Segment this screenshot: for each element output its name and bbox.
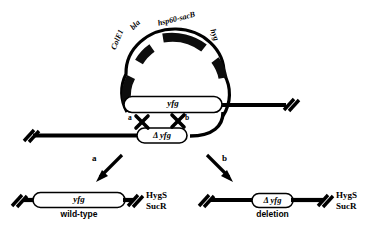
gene-block-hsp60-sacB (163, 37, 204, 48)
phenotype-deletion-suc: SucR (336, 201, 357, 212)
capsule-label-yfg: yfg (124, 99, 222, 108)
arrow-path-b (207, 155, 233, 182)
allelic-exchange-diagram: ColE1 bla hsp60-sacB hyg yfg Δ yfg a b a… (0, 0, 369, 233)
outcome-name-deletion: deletion (247, 210, 298, 219)
plasmid-lower-arc (190, 112, 223, 136)
break-mark-icon (24, 130, 39, 142)
capsule-label-delta-yfg: Δ yfg (137, 131, 187, 140)
path-label-b: b (222, 154, 227, 163)
break-mark-icon (284, 99, 299, 111)
crossover-label-a: a (128, 114, 132, 122)
arrow-path-a (96, 155, 122, 182)
outcome-gene-label-deletion: Δ yfg (252, 196, 293, 205)
outcome-name-wild-type: wild-type (33, 210, 125, 219)
phenotype-wild-type-hyg: HygS (146, 190, 167, 201)
plasmid-gene-blocks (126, 37, 223, 103)
break-mark-icon (318, 195, 333, 207)
crossover-mark-a (136, 116, 148, 128)
gene-block-bla (139, 48, 152, 62)
phenotype-wild-type-suc: SucR (146, 201, 167, 212)
crossover-mark-b (172, 115, 184, 127)
crossover-label-b: b (185, 114, 189, 122)
gene-block-hyg (215, 60, 223, 78)
phenotype-deletion-hyg: HygS (336, 190, 357, 201)
break-mark-icon (128, 195, 143, 207)
outcome-gene-label-wild-type: yfg (33, 195, 125, 204)
path-label-a: a (92, 154, 97, 163)
